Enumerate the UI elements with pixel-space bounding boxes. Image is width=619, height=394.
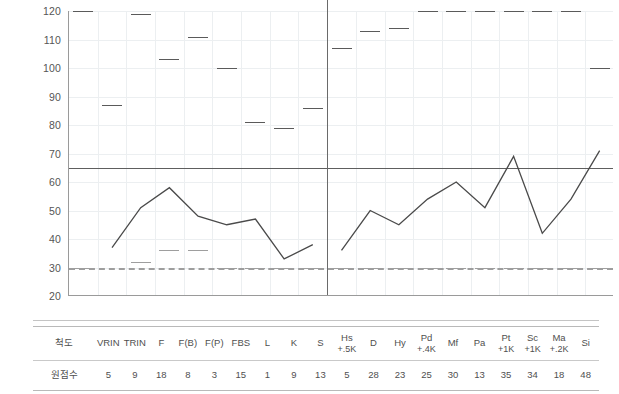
scale-name-suffix: +1K bbox=[519, 344, 546, 354]
raw-score-cell: 18 bbox=[148, 361, 175, 391]
raw-score-cell: 15 bbox=[228, 361, 255, 391]
scale-name: Ma bbox=[552, 332, 565, 343]
scale-name-cell: L bbox=[254, 327, 281, 361]
y-tick-label: 110 bbox=[44, 35, 61, 46]
scale-name-cell: Hy bbox=[387, 327, 414, 361]
scale-name-cell: Pt+1K bbox=[493, 327, 520, 361]
table-row-raw-scores: 원점수 5918831519135282325301335341848 bbox=[33, 361, 599, 391]
scale-name: F bbox=[158, 337, 164, 348]
y-tick-label: 30 bbox=[49, 263, 61, 274]
scale-name-cell: S bbox=[307, 327, 334, 361]
row-label-scale: 척도 bbox=[33, 327, 95, 361]
y-tick-label: 40 bbox=[49, 234, 61, 245]
scale-name-cell: FBS bbox=[228, 327, 255, 361]
scale-name: Pd bbox=[421, 332, 433, 343]
scale-name-cell: Mf bbox=[440, 327, 467, 361]
y-tick-label: 20 bbox=[49, 291, 61, 302]
y-axis-labels: 1201101009080706050403020 bbox=[0, 0, 68, 312]
scale-name-cell: F bbox=[148, 327, 175, 361]
profile-chart: 1201101009080706050403020 bbox=[0, 0, 619, 312]
raw-score-cell: 1 bbox=[254, 361, 281, 391]
scale-name: S bbox=[317, 337, 323, 348]
series-polyline-validity bbox=[112, 188, 313, 259]
row-label-raw-score: 원점수 bbox=[33, 361, 95, 391]
scale-name: F(P) bbox=[205, 337, 223, 348]
scale-name-cell: VRIN bbox=[95, 327, 122, 361]
scale-name: VRIN bbox=[97, 337, 120, 348]
raw-score-cell: 23 bbox=[387, 361, 414, 391]
table-row-scale-names: 척도 VRINTRINFF(B)F(P)FBSLKSHs+.5KDHyPd+.4… bbox=[33, 327, 599, 361]
scale-name: Hy bbox=[394, 337, 406, 348]
scale-name: Sc bbox=[527, 332, 538, 343]
scale-name-cell: D bbox=[360, 327, 387, 361]
raw-score-cell: 34 bbox=[519, 361, 546, 391]
y-tick-label: 60 bbox=[49, 177, 61, 188]
series-polyline-clinical bbox=[342, 151, 600, 251]
y-tick-label: 50 bbox=[49, 206, 61, 217]
scale-name: K bbox=[291, 337, 297, 348]
scale-name-cell: F(P) bbox=[201, 327, 228, 361]
scale-name: D bbox=[370, 337, 377, 348]
mmpi-profile-report: 1201101009080706050403020 척도 VRINTRINFF(… bbox=[0, 0, 619, 394]
scale-name-cell: Hs+.5K bbox=[334, 327, 361, 361]
raw-score-cell: 18 bbox=[546, 361, 573, 391]
raw-score-cell: 13 bbox=[466, 361, 493, 391]
raw-score-cell: 48 bbox=[572, 361, 599, 391]
score-table-wrap: 척도 VRINTRINFF(B)F(P)FBSLKSHs+.5KDHyPd+.4… bbox=[33, 326, 599, 388]
scale-name: L bbox=[265, 337, 270, 348]
scale-name-cell: Pa bbox=[466, 327, 493, 361]
scale-name-cell: TRIN bbox=[122, 327, 149, 361]
scale-name-cell: Sc+1K bbox=[519, 327, 546, 361]
scale-name-suffix: +.4K bbox=[413, 344, 440, 354]
raw-score-cell: 3 bbox=[201, 361, 228, 391]
scale-name: Si bbox=[581, 337, 589, 348]
y-tick-label: 80 bbox=[49, 120, 61, 131]
scale-name: Pt bbox=[502, 332, 511, 343]
scale-name: TRIN bbox=[124, 337, 146, 348]
y-tick-label: 90 bbox=[49, 92, 61, 103]
scale-name: FBS bbox=[232, 337, 250, 348]
scale-name-suffix: +.5K bbox=[334, 344, 361, 354]
raw-score-cell: 28 bbox=[360, 361, 387, 391]
scale-name-cell: K bbox=[281, 327, 308, 361]
raw-score-cell: 8 bbox=[175, 361, 202, 391]
raw-score-cell: 5 bbox=[95, 361, 122, 391]
scale-name: Mf bbox=[448, 337, 459, 348]
score-table-body: 척도 VRINTRINFF(B)F(P)FBSLKSHs+.5KDHyPd+.4… bbox=[33, 327, 599, 391]
raw-score-cell: 9 bbox=[122, 361, 149, 391]
y-tick-label: 120 bbox=[43, 6, 61, 17]
raw-score-cell: 9 bbox=[281, 361, 308, 391]
series-line-svg bbox=[69, 11, 614, 296]
raw-score-cell: 25 bbox=[413, 361, 440, 391]
y-tick-label: 70 bbox=[49, 149, 61, 160]
scale-name-cell: Si bbox=[572, 327, 599, 361]
plot-area bbox=[68, 11, 613, 296]
scale-name-cell: Ma+.2K bbox=[546, 327, 573, 361]
scale-name-cell: Pd+.4K bbox=[413, 327, 440, 361]
raw-score-cell: 13 bbox=[307, 361, 334, 391]
raw-score-cell: 5 bbox=[334, 361, 361, 391]
table-top-rule bbox=[33, 320, 599, 321]
scale-name-suffix: +.2K bbox=[546, 344, 573, 354]
scale-name-cell: F(B) bbox=[175, 327, 202, 361]
scale-name-suffix: +1K bbox=[493, 344, 520, 354]
scale-name: F(B) bbox=[179, 337, 197, 348]
y-tick-label: 100 bbox=[43, 63, 61, 74]
scale-name: Hs bbox=[341, 332, 353, 343]
raw-score-cell: 35 bbox=[493, 361, 520, 391]
scale-name: Pa bbox=[474, 337, 486, 348]
score-table: 척도 VRINTRINFF(B)F(P)FBSLKSHs+.5KDHyPd+.4… bbox=[33, 326, 599, 391]
raw-score-cell: 30 bbox=[440, 361, 467, 391]
